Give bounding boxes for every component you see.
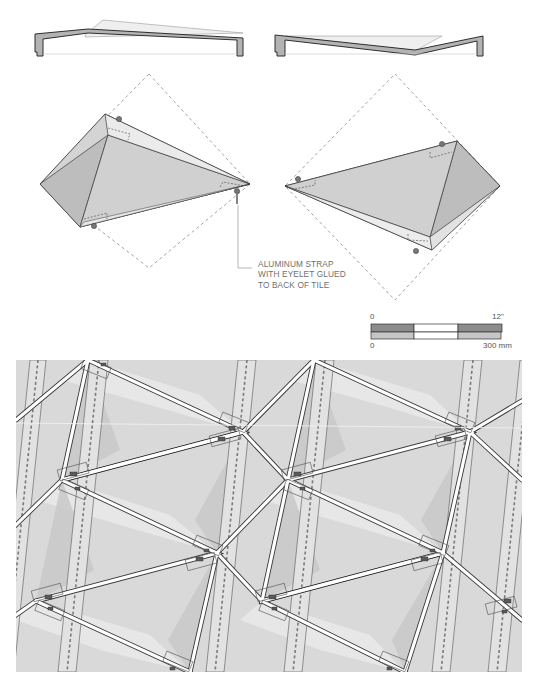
tile-plan <box>0 357 540 672</box>
diagram-canvas <box>0 0 542 690</box>
callout-leader <box>238 205 252 268</box>
scale-imperial-end: 12" <box>492 312 504 321</box>
scale-bar <box>371 324 502 339</box>
scale-metric-start: 0 <box>370 341 374 350</box>
section-right <box>275 35 483 56</box>
scale-imperial-start: 0 <box>370 312 374 321</box>
tile-left <box>40 74 250 268</box>
callout-line-1: ALUMINUM STRAP <box>258 259 346 269</box>
scale-metric-end: 300 mm <box>483 341 512 350</box>
callout-label: ALUMINUM STRAP WITH EYELET GLUED TO BACK… <box>258 259 346 290</box>
callout-line-3: TO BACK OF TILE <box>258 280 346 290</box>
callout-line-2: WITH EYELET GLUED <box>258 269 346 279</box>
section-left <box>35 20 243 56</box>
